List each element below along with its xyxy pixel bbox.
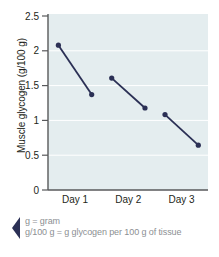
x-tick-label-day-2: Day 2 [115,194,142,205]
y-tick-label-2: 2 [33,45,39,56]
footnote: g = gram g/100 g = g glycogen per 100 g … [12,216,217,239]
x-tick-label-day-1: Day 1 [62,194,89,205]
y-axis-ticks [42,16,48,190]
y-tick-label-1.5: 1.5 [25,80,39,91]
figure: Muscle glycogen (g/100 g) [0,0,219,257]
data-point-day-3-end [196,143,201,148]
data-point-day-1-start [56,43,61,48]
y-tick-label-0: 0 [33,185,39,196]
y-tick-label-1: 1 [33,115,39,126]
line-chart: Muscle glycogen (g/100 g) [0,0,219,212]
y-tick-label-2.5: 2.5 [25,11,39,22]
left-triangle-icon [12,217,21,239]
data-point-day-2-end [142,105,147,110]
y-tick-label-0.5: 0.5 [25,150,39,161]
data-point-day-1-end [89,92,94,97]
data-point-day-2-start [109,76,114,81]
plot-svg: 0 0.5 1 1.5 2 2.5 [0,0,219,212]
data-point-day-3-start [162,112,167,117]
x-tick-label-day-3: Day 3 [169,194,196,205]
footnote-line-2: g/100 g = g glycogen per 100 g of tissue [25,227,217,238]
footnote-line-1: g = gram [25,216,217,227]
plot-background [48,14,208,190]
footnote-text: g = gram g/100 g = g glycogen per 100 g … [25,216,217,238]
